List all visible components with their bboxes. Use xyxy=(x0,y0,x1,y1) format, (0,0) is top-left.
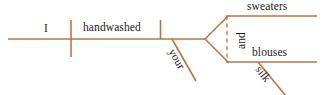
fork-lower-line xyxy=(205,39,229,63)
fork-upper-line xyxy=(205,16,229,40)
word-conjunction-and: and xyxy=(236,32,248,49)
word-object-blouses: blouses xyxy=(252,47,287,59)
word-object-sweaters: sweaters xyxy=(247,1,287,13)
word-verb: handwashed xyxy=(83,22,141,34)
word-subject: I xyxy=(44,23,48,35)
sentence-diagram: I handwashed your sweaters and blouses s… xyxy=(0,0,323,95)
